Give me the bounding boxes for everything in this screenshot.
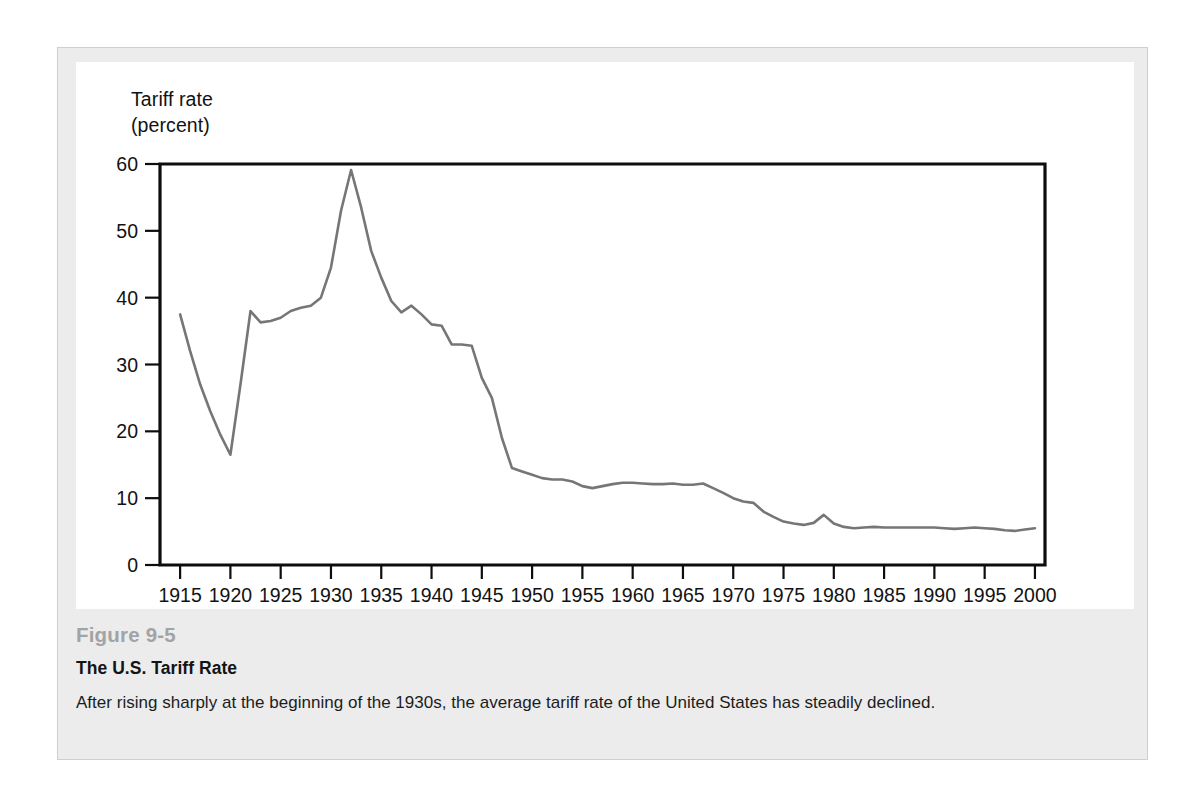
figure-panel: Tariff rate (percent) 010203040506019151… [57,47,1148,760]
y-axis-tick-label: 50 [116,220,138,242]
x-axis-tick-label: 1920 [209,584,253,606]
x-axis-tick-label: 1940 [410,584,454,606]
y-axis-tick-label: 20 [116,420,138,442]
x-axis-tick-label: 1935 [360,584,404,606]
x-axis-tick-label: 1965 [661,584,705,606]
x-axis-tick-label: 1980 [812,584,856,606]
figure-title: The U.S. Tariff Rate [76,658,1134,679]
chart-plot-card: Tariff rate (percent) 010203040506019151… [76,62,1134,609]
x-axis-tick-label: 1995 [963,584,1007,606]
tariff-rate-line-chart: 0102030405060191519201925193019351940194… [76,62,1134,609]
y-axis-tick-label: 40 [116,287,138,309]
x-axis-tick-label: 1915 [158,584,202,606]
y-axis-tick-label: 0 [127,554,138,576]
figure-caption-block: Figure 9-5 The U.S. Tariff Rate After ri… [76,623,1134,715]
x-axis-tick-label: 1950 [510,584,554,606]
x-axis-tick-label: 1955 [561,584,605,606]
x-axis-tick-label: 1945 [460,584,504,606]
x-axis-tick-label: 1960 [611,584,655,606]
y-axis-tick-label: 30 [116,354,138,376]
x-axis-tick-label: 1930 [309,584,353,606]
x-axis-tick-label: 1925 [259,584,303,606]
x-axis-tick-label: 1975 [762,584,806,606]
plot-frame [160,164,1045,565]
y-axis-tick-label: 10 [116,487,138,509]
x-axis-tick-label: 2000 [1013,584,1057,606]
x-axis-tick-label: 1970 [712,584,756,606]
figure-description: After rising sharply at the beginning of… [76,692,1134,715]
y-axis-tick-label: 60 [116,153,138,175]
x-axis-tick-label: 1990 [913,584,957,606]
figure-number: Figure 9-5 [76,623,1134,647]
tariff-rate-series-line [180,170,1035,531]
x-axis-tick-label: 1985 [862,584,906,606]
